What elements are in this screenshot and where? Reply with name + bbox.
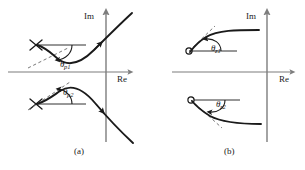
locus-arrow-lower-a	[96, 104, 103, 112]
imaginary-axis-label-b: Im	[246, 12, 256, 21]
theta-subscript-z1: z1	[215, 47, 221, 54]
locus-upper-b	[190, 30, 259, 52]
theta-subscript-p2: p2	[67, 91, 74, 98]
real-axis-label-b: Re	[279, 75, 289, 84]
angle-label-theta-p2: θp2	[63, 88, 74, 97]
locus-lower-b	[192, 101, 261, 124]
locus-arrow-upper-a	[94, 43, 101, 50]
root-locus-figure: Im Re θp1 θp2 (a) Im Re θz1 θz2 (b)	[0, 0, 305, 170]
imaginary-axis-label-a: Im	[84, 12, 94, 21]
figure-canvas	[0, 0, 305, 170]
angle-label-theta-z2: θz2	[216, 100, 226, 109]
angle-label-theta-z1: θz1	[211, 44, 221, 53]
theta-subscript-z2: z2	[220, 103, 226, 110]
locus-lower-a	[37, 88, 133, 143]
theta-subscript-p1: p1	[64, 63, 71, 70]
panel-caption-b: (b)	[224, 147, 235, 156]
angle-label-theta-p1: θp1	[60, 60, 71, 69]
panel-caption-a: (a)	[74, 147, 84, 156]
real-axis-label-a: Re	[117, 75, 127, 84]
